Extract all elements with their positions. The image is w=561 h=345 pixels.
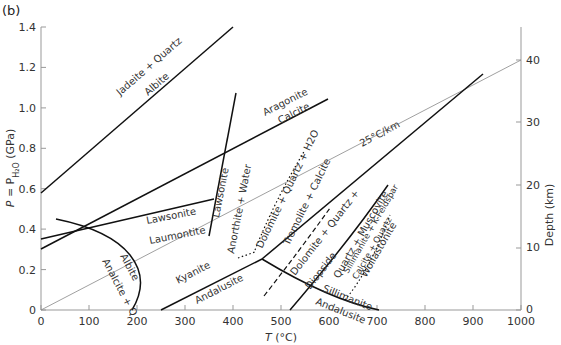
- svg-text:Anorthite + Water: Anorthite + Water: [225, 162, 253, 254]
- y2-axis-ticks: [516, 60, 521, 310]
- jadeite-albite-line: [41, 27, 233, 193]
- svg-text:25°C/km: 25°C/km: [358, 119, 402, 149]
- x-tick: 800: [415, 315, 436, 328]
- y-tick: 0.6: [19, 183, 37, 196]
- y2-axis-label: Depth (km): [543, 184, 556, 247]
- y2-tick: 20: [526, 179, 540, 192]
- x-tick: 100: [79, 315, 100, 328]
- x-axis-ticks: [41, 305, 521, 310]
- x-tick: 0: [38, 315, 45, 328]
- phase-diagram: (b) 0 0.2 0.4 0.6 0.8 1.0 1.2 1.4 P = PH…: [0, 0, 561, 345]
- svg-text:Lawsonite: Lawsonite: [210, 167, 230, 219]
- y2-tick: 40: [526, 54, 540, 67]
- svg-text:Kyanite: Kyanite: [174, 259, 212, 286]
- y2-tick: 0: [526, 303, 533, 316]
- y2-tick: 10: [526, 241, 540, 254]
- x-axis-tick-labels: 0 100 200 300 400 500 600 700 800 900 10…: [38, 315, 536, 328]
- y-tick: 1.2: [19, 61, 37, 74]
- x-tick: 300: [175, 315, 196, 328]
- y-tick: 0.8: [19, 142, 37, 155]
- y2-axis-tick-labels: 0 10 20 30 40: [526, 54, 540, 316]
- y-tick: 0.4: [19, 223, 37, 236]
- y-axis-ticks: [41, 27, 46, 310]
- x-tick: 1000: [507, 315, 535, 328]
- x-tick: 600: [319, 315, 340, 328]
- x-tick: 500: [271, 315, 292, 328]
- y-tick: 0: [29, 304, 36, 317]
- x-tick: 900: [463, 315, 484, 328]
- y-tick: 1.4: [19, 21, 37, 34]
- y-tick: 1.0: [19, 102, 37, 115]
- svg-text:Laumontite: Laumontite: [148, 224, 206, 246]
- y2-tick: 30: [526, 116, 540, 129]
- kyanite-andalusite-line: [161, 259, 262, 310]
- panel-label: (b): [2, 3, 20, 18]
- x-axis-label: T (°C): [265, 331, 297, 344]
- x-tick: 700: [367, 315, 388, 328]
- svg-text:Andalusite: Andalusite: [193, 272, 245, 306]
- x-tick: 400: [223, 315, 244, 328]
- y-axis-tick-labels: 0 0.2 0.4 0.6 0.8 1.0 1.2 1.4: [19, 21, 37, 317]
- y-tick: 0.2: [19, 264, 37, 277]
